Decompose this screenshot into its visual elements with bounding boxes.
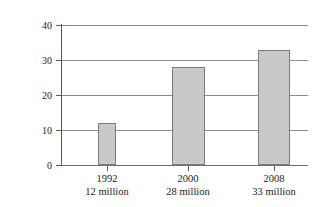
y-tick-label-0: 0 (30, 161, 52, 171)
x-label-year-2008: 2008 (226, 172, 322, 185)
x-tick-mark-2000 (188, 166, 189, 171)
bar-1992[interactable] (98, 123, 116, 165)
y-tick-label-10: 10 (30, 126, 52, 136)
x-label-value-2008: 33 million (226, 185, 322, 198)
bar-2008[interactable] (258, 50, 290, 166)
y-tick-label-40: 40 (30, 21, 52, 31)
y-tick-label-30: 30 (30, 56, 52, 66)
x-label-year-2000: 2000 (140, 172, 236, 185)
bar-chart-figure: People living with AIDS (millions) 40 30… (0, 0, 335, 207)
plot-area (62, 25, 308, 165)
bar-2000[interactable] (172, 67, 205, 165)
gridline-40 (62, 25, 308, 26)
x-tick-mark-1992 (107, 166, 108, 171)
x-axis-line (62, 165, 308, 166)
x-tick-mark-2008 (274, 166, 275, 171)
x-label-value-2000: 28 million (140, 185, 236, 198)
y-tick-label-20: 20 (30, 91, 52, 101)
x-label-group-2008: 2008 33 million (226, 172, 322, 198)
x-label-group-2000: 2000 28 million (140, 172, 236, 198)
